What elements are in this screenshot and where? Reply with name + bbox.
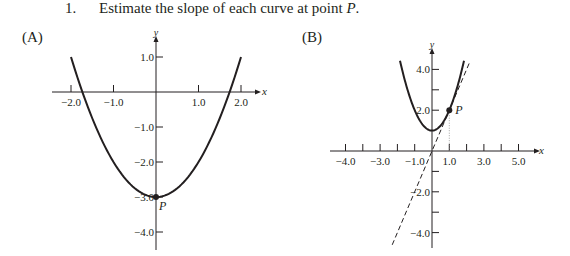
x-tick-label: −1.0 [405,155,425,167]
x-tick-label: −1.0 [104,96,124,108]
x-tick-label: −3.0 [370,155,390,167]
y-tick-label: −1.0 [134,121,154,133]
point-p-label: P [454,103,463,117]
x-axis-label: x [538,144,544,156]
point-p-label: P [158,199,167,213]
y-tick-label: −2.0 [134,156,154,168]
y-tick-label: 1.0 [140,51,154,63]
y-tick-label: −2.0 [410,186,430,198]
x-tick-label: 1.0 [442,155,456,167]
x-tick-label: 3.0 [477,155,491,167]
y-tick-label: 4.0 [416,63,430,75]
y-tick-label: −4.0 [410,227,430,239]
x-axis-label: x [261,85,267,97]
y-tick-label: 2.0 [416,104,430,116]
point-p [446,107,452,113]
graph-a: xy−2.0−1.01.02.01.0−1.0−2.0−3.0−4.0P [52,27,267,250]
graphs-figure: xy−2.0−1.01.02.01.0−1.0−2.0−3.0−4.0P xy−… [0,0,570,256]
x-tick-label: −2.0 [61,96,81,108]
graph-b: xy−4.0−3.0−1.01.03.05.04.02.0−2.0−4.0P [330,39,544,248]
x-tick-label: 5.0 [512,155,526,167]
x-axis-arrow-icon [255,90,261,95]
tangent-line [392,61,470,245]
x-tick-label: −4.0 [336,155,356,167]
y-axis-label: y [153,27,159,38]
x-tick-label: 2.0 [234,96,248,108]
y-tick-label: −4.0 [134,226,154,238]
x-tick-label: 1.0 [192,96,206,108]
y-axis-label: y [429,39,435,50]
